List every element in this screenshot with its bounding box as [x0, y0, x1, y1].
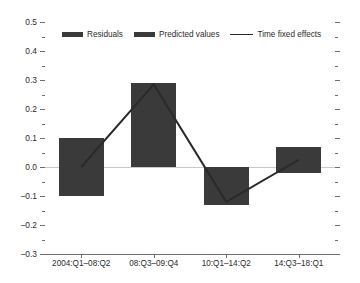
- y-tick-label: 0.3: [25, 76, 37, 84]
- y-tick-minor-right: [335, 37, 338, 38]
- y-tick-minor-right: [335, 211, 338, 212]
- chart-figure: Residuals Predicted values Time fixed ef…: [0, 0, 360, 283]
- time-fixed-effects-line: [45, 22, 335, 254]
- y-tick-minor-right: [335, 182, 338, 183]
- y-tick-label: –0.1: [21, 192, 37, 200]
- y-tick-major-right: [335, 80, 340, 81]
- x-tick-label: 08:Q3–09:Q4: [129, 260, 178, 268]
- x-axis-line: [45, 254, 335, 255]
- y-tick-minor-right: [335, 66, 338, 67]
- y-tick-major-right: [335, 22, 340, 23]
- y-tick-major-right: [335, 109, 340, 110]
- y-tick-label: –0.2: [21, 221, 37, 229]
- y-tick-major-right: [335, 51, 340, 52]
- y-tick-minor-right: [335, 153, 338, 154]
- y-tick-minor-right: [335, 95, 338, 96]
- y-tick-major-right: [335, 138, 340, 139]
- x-tick-label: 2004:Q1–08:Q2: [52, 260, 110, 268]
- y-tick-label: 0.1: [25, 134, 37, 142]
- x-tick-label: 14:Q3–18:Q1: [274, 260, 323, 268]
- y-tick-major-right: [335, 196, 340, 197]
- y-tick-major-right: [335, 225, 340, 226]
- plot-area: 0.50.40.30.20.10.0–0.1–0.2–0.3 2004:Q1–0…: [45, 22, 335, 254]
- y-tick-minor-right: [335, 124, 338, 125]
- y-tick-minor-right: [335, 240, 338, 241]
- y-tick-label: 0.0: [25, 163, 37, 171]
- y-tick-label: 0.5: [25, 18, 37, 26]
- y-tick-label: 0.2: [25, 105, 37, 113]
- y-tick-label: –0.3: [21, 250, 37, 258]
- y-tick-label: 0.4: [25, 47, 37, 55]
- x-tick-label: 10:Q1–14:Q2: [202, 260, 251, 268]
- y-tick-major-right: [335, 254, 340, 255]
- y-tick-major-right: [335, 167, 340, 168]
